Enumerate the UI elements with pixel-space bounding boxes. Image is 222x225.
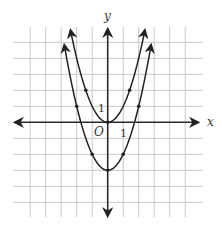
x-axis-label: x — [207, 115, 214, 129]
data-point — [121, 153, 125, 157]
y-axis-label: y — [103, 9, 111, 23]
data-point — [128, 89, 132, 93]
data-point — [84, 89, 88, 93]
coordinate-plane: x y O 1 1 — [0, 0, 222, 225]
origin-label: O — [94, 125, 104, 139]
x-tick-label-1: 1 — [120, 127, 127, 140]
data-point — [75, 105, 79, 109]
y-tick-label-1: 1 — [98, 102, 105, 115]
data-point — [90, 153, 94, 157]
data-point — [106, 169, 110, 173]
data-point — [137, 105, 141, 109]
data-point — [106, 121, 110, 125]
